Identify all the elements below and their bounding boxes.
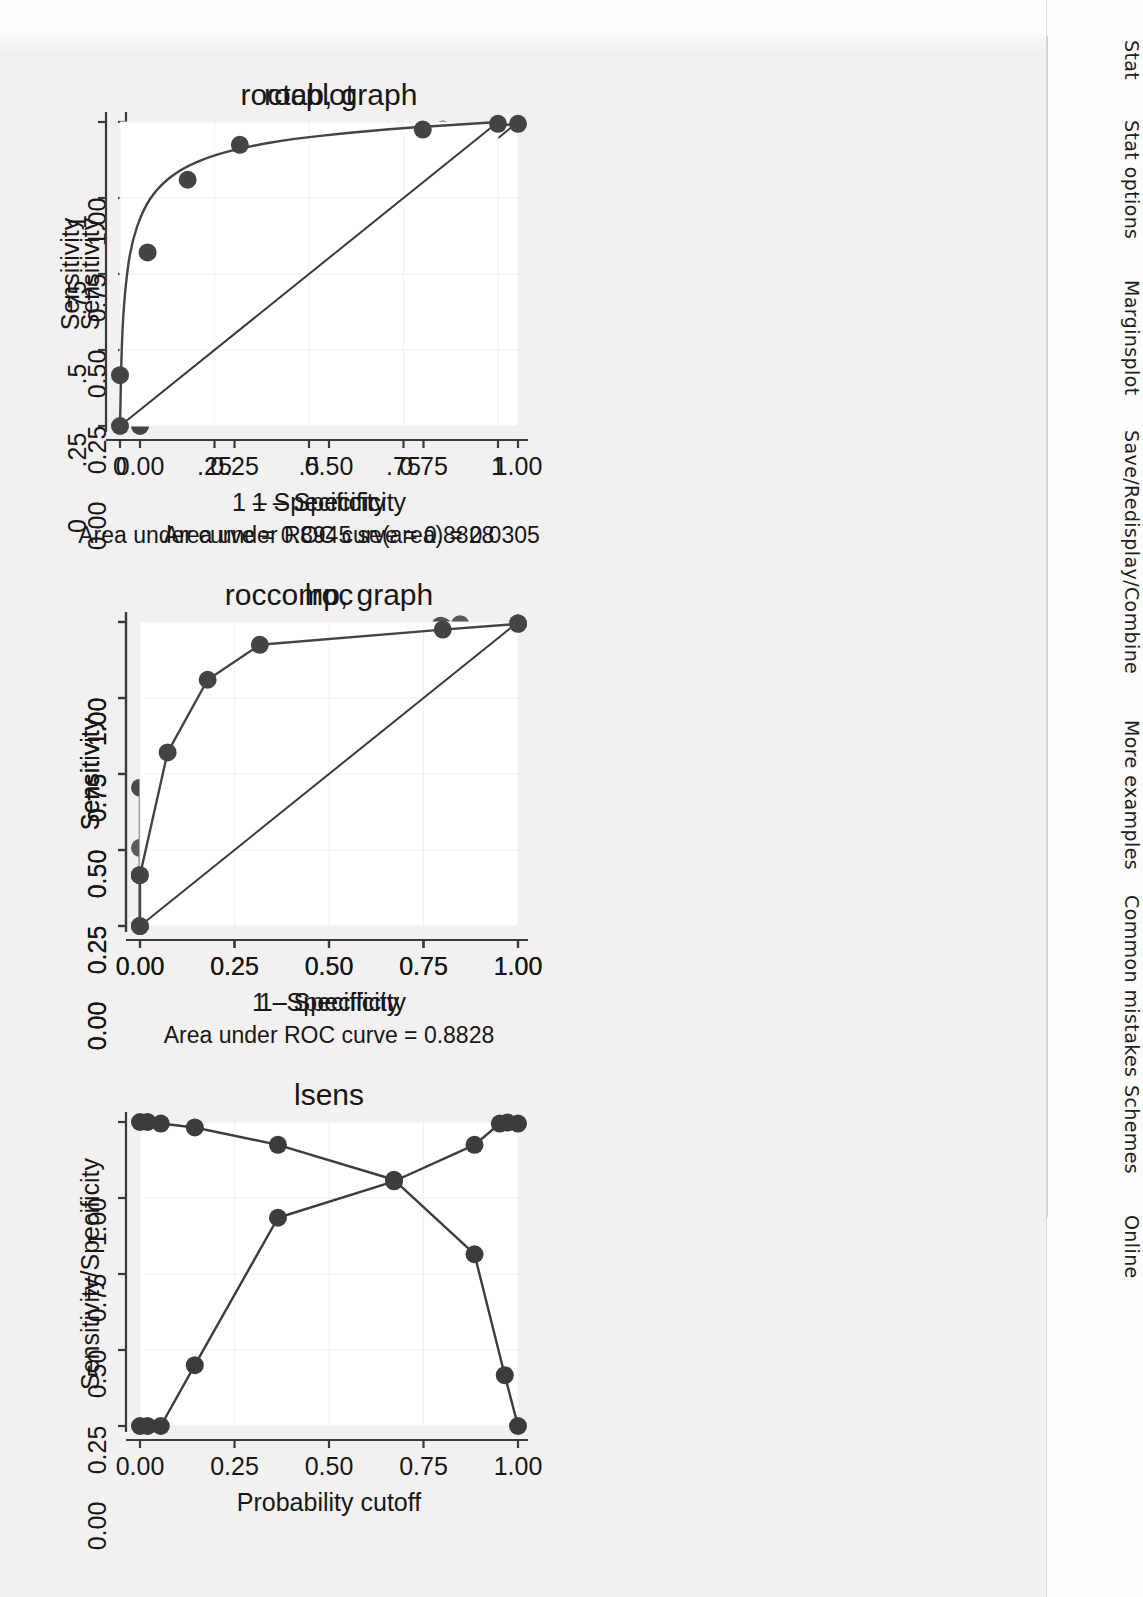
data-point xyxy=(186,1118,204,1136)
data-point xyxy=(491,1115,509,1133)
data-point xyxy=(496,1366,514,1384)
data-point xyxy=(152,1417,170,1435)
sidebar-tab-label: Schemes xyxy=(1121,1085,1143,1174)
sidebar-tab-marginsplot[interactable]: Marginsplot xyxy=(1047,280,1143,396)
chart-title-lsens: lsens xyxy=(20,1078,638,1112)
chart-panel-lsens: lsens0.000.250.500.751.000.000.250.500.7… xyxy=(0,0,1143,1597)
data-point xyxy=(385,1172,403,1190)
sidebar-tab-label: More examples xyxy=(1121,720,1143,870)
data-point xyxy=(152,1115,170,1133)
x-tick-label: 0.25 xyxy=(210,1452,259,1481)
x-tick-label: 0.00 xyxy=(116,1452,165,1481)
sidebar-tabs: StatStat optionsMarginsplotSave/Redispla… xyxy=(1046,0,1143,1597)
x-tick-label: 0.50 xyxy=(305,1452,354,1481)
data-point xyxy=(466,1136,484,1154)
data-point xyxy=(509,1115,527,1133)
plot-area-lsens xyxy=(140,1122,518,1426)
x-axis-title-lsens: Probability cutoff xyxy=(20,1488,638,1517)
sidebar-tab-stat-options[interactable]: Stat options xyxy=(1047,120,1143,239)
series-line-lsens-1 xyxy=(140,1123,518,1426)
x-tick-label: 0.75 xyxy=(399,1452,448,1481)
data-point xyxy=(269,1209,287,1227)
sidebar-tab-label: Stat xyxy=(1121,40,1143,80)
data-point xyxy=(385,1171,403,1189)
sidebar-tab-label: Save/Redisplay/Combine xyxy=(1121,430,1143,674)
sidebar-tab-label: Stat options xyxy=(1121,120,1143,239)
sidebar-tab-label: Marginsplot xyxy=(1121,280,1143,396)
data-point xyxy=(131,1113,149,1131)
data-point xyxy=(269,1136,287,1154)
sidebar-tab-label: Common mistakes xyxy=(1121,895,1143,1077)
sidebar-tab-stat[interactable]: Stat xyxy=(1047,40,1143,80)
data-point xyxy=(509,1417,527,1435)
data-point xyxy=(186,1356,204,1374)
x-tick-label: 1.00 xyxy=(494,1452,543,1481)
series-line-lsens-0 xyxy=(140,1122,518,1426)
y-axis-title-lsens: Sensitivity/Specificity xyxy=(76,1124,105,1424)
sidebar-tab-save-redisplay-combine[interactable]: Save/Redisplay/Combine xyxy=(1047,430,1143,674)
sidebar-tab-more-examples[interactable]: More examples xyxy=(1047,720,1143,870)
scanned-page: roctab, graph0.000.250.500.751.000.000.2… xyxy=(0,0,1143,1597)
sidebar-tab-schemes[interactable]: Schemes xyxy=(1047,1085,1143,1174)
sidebar-tab-common-mistakes[interactable]: Common mistakes xyxy=(1047,895,1143,1077)
chart-canvas-lsens xyxy=(0,0,1143,1597)
data-point xyxy=(498,1114,516,1132)
sidebar-tab-online[interactable]: Online xyxy=(1047,1215,1143,1279)
data-point xyxy=(139,1417,157,1435)
sidebar-tab-label: Online xyxy=(1121,1215,1143,1279)
data-point xyxy=(139,1113,157,1131)
data-point xyxy=(466,1245,484,1263)
data-point xyxy=(131,1417,149,1435)
